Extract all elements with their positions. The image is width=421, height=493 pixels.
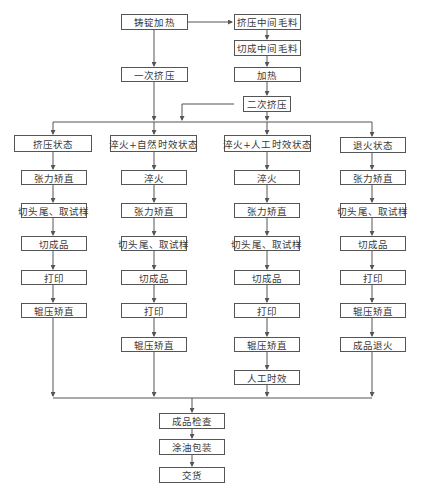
col2-step: 张力矫直	[121, 203, 187, 218]
col1-step: 切成品	[21, 236, 87, 251]
col1-step: 辊压矫直	[21, 303, 87, 318]
col2-step: 切头尾、取试样	[121, 236, 187, 251]
col4-step: 打印	[340, 270, 406, 285]
flowchart: 铸锭加热 挤压中间毛料 切成中间毛料 一次挤压 加热 二次挤压 挤压状态 张力矫…	[0, 0, 421, 493]
step-final-inspection: 成品检查	[159, 413, 225, 429]
col2-step: 淬火	[121, 170, 187, 185]
step-delivery: 交货	[159, 467, 225, 483]
col1-step: 切头尾、取试样	[21, 203, 87, 218]
step-oiling-packing: 涂油包装	[159, 439, 225, 455]
col3-step: 切头尾、取试样	[234, 236, 300, 251]
col2-step: 辊压矫直	[121, 337, 187, 352]
col4-step: 辊压矫直	[340, 303, 406, 318]
col2-step: 打印	[121, 303, 187, 318]
step-heating: 加热	[234, 67, 301, 82]
col4-step: 切成品	[340, 236, 406, 251]
step-first-extrusion: 一次挤压	[121, 67, 188, 82]
header-extruded-state: 挤压状态	[14, 135, 92, 152]
step-ingot-heating: 铸锭加热	[121, 14, 188, 30]
col3-step: 淬火	[234, 170, 300, 185]
col3-step: 打印	[234, 303, 300, 318]
step-extrude-intermediate: 挤压中间毛料	[234, 14, 301, 30]
header-quench-artificial-aging: 淬火+人工时效状态	[224, 135, 311, 152]
col1-step: 打印	[21, 270, 87, 285]
step-cut-intermediate: 切成中间毛料	[234, 40, 301, 56]
header-annealed-state: 退火状态	[340, 137, 406, 153]
col4-step: 成品退火	[340, 337, 406, 352]
col3-step: 张力矫直	[234, 203, 300, 218]
col3-step: 切成品	[234, 270, 300, 285]
col4-step: 张力矫直	[340, 170, 406, 185]
col2-step: 切成品	[121, 270, 187, 285]
col1-step: 张力矫直	[21, 170, 87, 185]
step-second-extrusion: 二次挤压	[243, 96, 291, 112]
col3-step: 人工时效	[234, 370, 300, 385]
header-quench-natural-aging: 淬火+自然时效状态	[110, 135, 197, 152]
col3-step: 辊压矫直	[234, 337, 300, 352]
col4-step: 切头尾、取试样	[340, 203, 406, 218]
